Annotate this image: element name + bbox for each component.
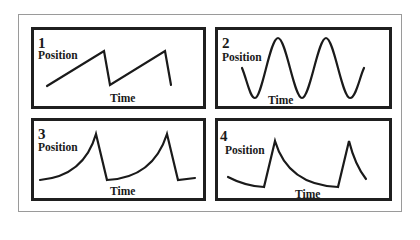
panel-1-number: 1 [38,36,46,50]
panel-2-position-label: Position [222,51,262,63]
panel-2 [215,27,392,109]
panel-4-position-label: Position [225,144,265,156]
panel-4-number: 4 [220,129,228,143]
panel-1-time-label: Time [110,92,135,104]
panel-1-position-label: Position [38,49,78,61]
panel-2-time-label: Time [268,94,293,106]
panel-3-position-label: Position [38,141,78,153]
panel-2-number: 2 [222,36,230,50]
panel-3-number: 3 [38,127,46,141]
panel-3-time-label: Time [110,185,135,197]
panel-4-time-label: Time [295,188,320,200]
